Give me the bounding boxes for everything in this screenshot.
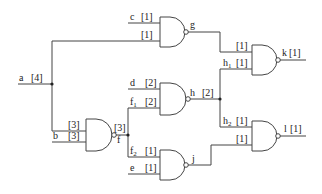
label-f2: f2 <box>130 145 137 158</box>
label-c-width: [1] <box>141 11 153 22</box>
label-k: k <box>282 47 287 58</box>
label-h1-width: [1] <box>236 57 248 68</box>
label-l: l <box>284 123 287 134</box>
label-k-width: [1] <box>289 47 301 58</box>
label-f: f <box>117 134 121 145</box>
junction-a <box>50 82 53 85</box>
label-f1: f1 <box>130 96 137 109</box>
label-b-width: [3] <box>68 130 80 141</box>
label-h2-width: [1] <box>236 115 248 126</box>
label-f2-width: [1] <box>145 145 157 156</box>
wire-j <box>188 145 252 165</box>
label-a-width: [4] <box>31 72 43 83</box>
label-c: c <box>130 11 135 22</box>
nand-gate-j <box>160 150 188 180</box>
label-f1-width: [2] <box>145 96 157 107</box>
label-l-j-width: [1] <box>236 133 248 144</box>
nand-gate-g <box>160 17 188 47</box>
label-h2: h2 <box>223 115 232 128</box>
label-g: g <box>190 19 195 30</box>
label-l-width: [1] <box>290 123 302 134</box>
nand-gate-l <box>252 121 280 151</box>
label-d: d <box>130 77 135 88</box>
label-nand1-a-width: [3] <box>68 119 80 130</box>
label-g-in2-width: [1] <box>141 29 153 40</box>
logic-circuit-diagram: a [4] b [3] [3] c [1] [1] d [2] f1 [2] [… <box>0 0 322 194</box>
label-h1: h1 <box>223 57 232 70</box>
label-b: b <box>53 130 58 141</box>
label-e: e <box>130 162 135 173</box>
label-k-g-width: [1] <box>236 40 248 51</box>
label-a: a <box>19 72 24 83</box>
junction-f <box>126 133 129 136</box>
label-h-width: [2] <box>202 87 214 98</box>
nand-gate-f <box>86 119 116 151</box>
label-d-width: [2] <box>145 77 157 88</box>
nand-gate-h <box>160 83 190 115</box>
label-e-width: [1] <box>145 162 157 173</box>
label-j: j <box>191 153 195 164</box>
label-f-width: [3] <box>114 122 126 133</box>
nand-gate-k <box>252 45 280 75</box>
label-h: h <box>190 87 195 98</box>
junction-h <box>218 97 221 100</box>
